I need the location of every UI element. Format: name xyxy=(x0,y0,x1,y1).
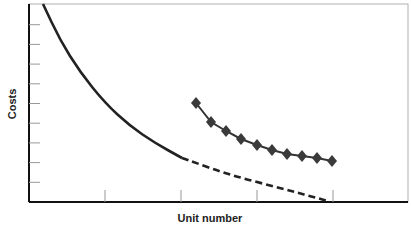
series-group xyxy=(43,4,337,201)
diamond-marker-icon xyxy=(297,150,307,162)
diamond-marker-icon xyxy=(236,133,246,145)
actual-costs-markers-line xyxy=(196,103,332,161)
plot-frame xyxy=(29,4,408,202)
cost-curve-solid-line xyxy=(43,4,182,158)
x-axis-label: Unit number xyxy=(150,212,270,224)
diamond-marker-icon xyxy=(221,125,231,137)
diamond-marker-icon xyxy=(327,155,337,167)
diamond-marker-icon xyxy=(282,148,292,160)
diamond-marker-icon xyxy=(312,152,322,164)
y-ticks xyxy=(29,25,40,183)
y-axis-label: Costs xyxy=(6,84,18,124)
cost-curve-projected-line xyxy=(182,158,328,201)
diamond-marker-icon xyxy=(252,139,262,151)
chart-plot xyxy=(0,0,411,232)
diamond-marker-icon xyxy=(267,144,277,156)
